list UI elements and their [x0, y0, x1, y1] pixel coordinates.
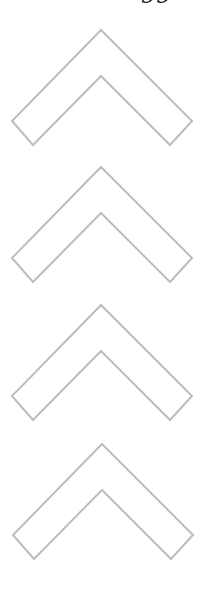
chevron-up-button-2[interactable]: [0, 165, 219, 305]
chevron-up-button-4[interactable]: [0, 442, 219, 582]
chevron-up-button-1[interactable]: [0, 28, 219, 168]
chevron-up-stack: [0, 0, 219, 593]
chevron-up-icon: [0, 442, 219, 582]
chevron-up-button-3[interactable]: [0, 303, 219, 443]
chevron-up-icon: [0, 165, 219, 305]
chevron-up-icon: [0, 303, 219, 443]
chevron-up-icon: [0, 28, 219, 168]
